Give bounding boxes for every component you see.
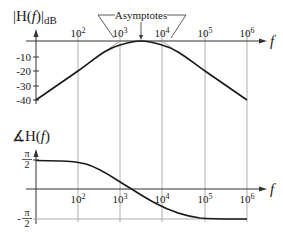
bode-plot: |H(f)|dB f -10 -20 -30 -40: [0, 0, 283, 241]
y-tick-label: -10: [16, 51, 31, 63]
y-arrow-icon: [34, 29, 39, 37]
magnitude-x-label: f: [270, 33, 276, 49]
magnitude-curve: [36, 41, 247, 100]
x-tick-label: 105: [198, 192, 213, 205]
magnitude-title: |H(f)|dB: [13, 8, 57, 26]
phase-x-label: f: [270, 181, 276, 197]
x-tick-label: 102: [71, 26, 86, 39]
x-tick-label: 103: [113, 26, 128, 39]
phase-plot: ∡H(f) f π 2 - π 2 102 103 104 105: [12, 128, 276, 229]
x-tick-label: 106: [240, 192, 255, 205]
svg-text:π: π: [24, 207, 29, 218]
magnitude-plot: |H(f)|dB f -10 -20 -30 -40: [13, 8, 276, 222]
x-arrow-icon: [259, 39, 267, 44]
svg-text:2: 2: [25, 159, 30, 170]
asymptotes-annotation: Asymptotes: [115, 9, 168, 21]
y-arrow-icon: [34, 149, 39, 157]
phase-title: ∡H(f): [12, 128, 50, 145]
phase-y-tick-minus-pi-over-2: - π 2: [17, 207, 32, 229]
x-tick-label: 106: [240, 26, 255, 39]
y-tick-label: -20: [16, 65, 31, 77]
svg-text:-: -: [17, 213, 20, 224]
x-arrow-icon: [259, 187, 267, 192]
svg-text:2: 2: [25, 218, 30, 229]
x-tick-label: 102: [71, 192, 86, 205]
x-tick-label: 104: [155, 26, 170, 39]
asymptote-lines: [36, 41, 247, 100]
y-tick-label: -30: [16, 80, 31, 92]
x-tick-label: 103: [113, 192, 128, 205]
svg-text:π: π: [24, 148, 29, 159]
y-tick-label: -40: [16, 94, 31, 106]
phase-x-ticks: 102 103 104 105 106: [71, 192, 255, 205]
phase-curve: [36, 161, 247, 220]
magnitude-x-ticks: 102 103 104 105 106: [71, 26, 255, 39]
arrow-down-icon: [139, 35, 143, 40]
x-tick-label: 105: [198, 26, 213, 39]
phase-y-tick-pi-over-2: π 2: [22, 148, 32, 170]
